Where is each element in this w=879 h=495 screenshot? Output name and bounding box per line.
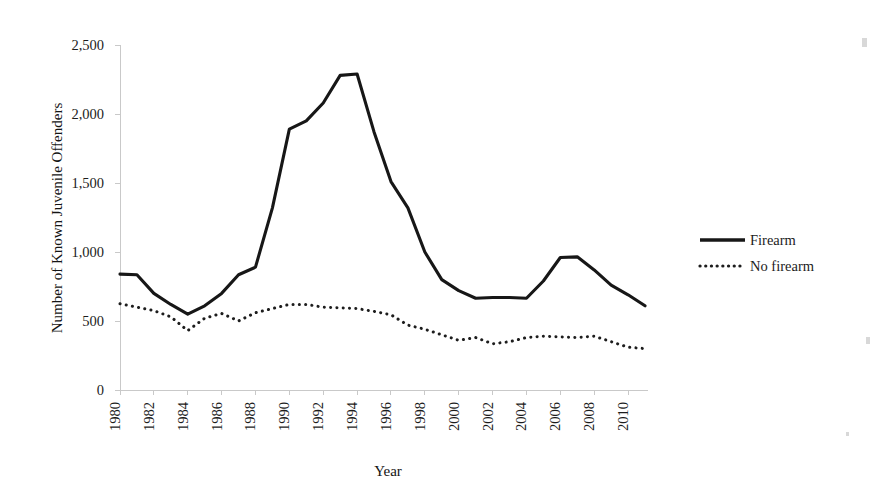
- x-axis-title: Year: [374, 463, 402, 479]
- y-axis-tick-label: 500: [82, 313, 104, 329]
- legend-label-firearm: Firearm: [750, 232, 797, 248]
- x-axis-tick-label: 1982: [141, 402, 157, 431]
- x-axis-tick-label: 2006: [547, 402, 563, 431]
- line-chart-svg: 05001,0001,5002,0002,500 198019821984198…: [0, 0, 879, 495]
- x-axis-tick-label: 1980: [107, 402, 123, 431]
- x-axis-tick-label: 1990: [276, 402, 292, 431]
- chart-figure: 05001,0001,5002,0002,500 198019821984198…: [0, 0, 879, 495]
- x-axis-tick-label: 1994: [344, 401, 360, 431]
- x-axis-tick-label: 2004: [513, 401, 529, 431]
- y-axis-tick-label: 1,500: [71, 175, 104, 191]
- x-axis-tick-label: 1996: [378, 402, 394, 431]
- legend-label-no-firearm: No firearm: [750, 258, 815, 274]
- x-axis-tick-label: 1986: [209, 402, 225, 431]
- x-axis-tick-label: 2008: [581, 402, 597, 431]
- chart-background: [0, 0, 879, 495]
- x-axis-tick-label: 2002: [480, 402, 496, 431]
- x-axis-tick-label: 1988: [242, 402, 258, 431]
- x-axis-tick-label: 1998: [412, 402, 428, 431]
- y-axis-tick-label: 2,000: [71, 106, 104, 122]
- x-axis-tick-label: 1992: [310, 402, 326, 431]
- x-axis-tick-label: 1984: [175, 401, 191, 431]
- x-axis-tick-label: 2010: [615, 402, 631, 431]
- y-axis-tick-label: 0: [97, 382, 104, 398]
- y-axis-tick-label: 1,000: [71, 244, 104, 260]
- y-axis-title: Number of Known Juvenile Offenders: [49, 103, 65, 334]
- y-axis-tick-label: 2,500: [71, 37, 104, 53]
- x-axis-tick-label: 2000: [446, 402, 462, 431]
